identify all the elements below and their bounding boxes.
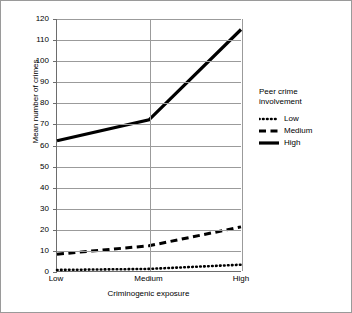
y-axis-tick-mark — [53, 82, 57, 83]
y-axis-tick-mark — [53, 188, 57, 189]
y-axis-tick-mark — [53, 272, 57, 273]
legend-swatch-dashed-icon — [259, 126, 279, 136]
y-axis-tick-label: 20 — [40, 226, 49, 234]
x-axis-tick-labels: LowMediumHigh — [56, 274, 241, 288]
y-axis-tick-mark — [53, 167, 57, 168]
x-axis-tick-label: Medium — [134, 274, 162, 283]
y-axis-tick-labels: 0102030405060708090100110120 — [1, 1, 53, 313]
y-axis-tick-mark — [53, 209, 57, 210]
y-axis-tick-mark — [53, 19, 57, 20]
legend-label: Medium — [284, 126, 312, 135]
y-axis-tick-label: 80 — [40, 99, 49, 107]
y-axis-tick-mark — [53, 61, 57, 62]
y-axis-tick-mark — [53, 251, 57, 252]
y-axis-tick-mark — [53, 124, 57, 125]
legend-entry-low: Low — [259, 113, 347, 124]
legend-entry-medium: Medium — [259, 125, 347, 136]
y-axis-tick-label: 70 — [40, 120, 49, 128]
y-axis-tick-mark — [53, 103, 57, 104]
x-axis-title: Criminogenic exposure — [56, 289, 241, 298]
y-axis-tick-label: 50 — [40, 163, 49, 171]
legend: Peer crime involvement LowMediumHigh — [259, 87, 347, 149]
category-separator — [150, 19, 151, 271]
y-axis-tick-mark — [53, 40, 57, 41]
y-axis-tick-label: 100 — [36, 57, 49, 65]
y-axis-tick-label: 10 — [40, 247, 49, 255]
x-axis-tick-label: High — [233, 274, 249, 283]
legend-swatch-dotted-icon — [259, 114, 279, 124]
legend-entry-high: High — [259, 137, 347, 148]
y-axis-tick-label: 110 — [36, 36, 49, 44]
y-axis-tick-mark — [53, 230, 57, 231]
legend-entries: LowMediumHigh — [259, 113, 347, 148]
plot-area — [56, 19, 241, 272]
legend-label: High — [284, 138, 300, 147]
category-separator — [242, 19, 243, 271]
y-axis-tick-label: 120 — [36, 15, 49, 23]
y-axis-tick-label: 90 — [40, 78, 49, 86]
legend-title: Peer crime involvement — [259, 87, 347, 107]
legend-label: Low — [284, 114, 299, 123]
y-axis-tick-label: 40 — [40, 184, 49, 192]
y-axis-tick-label: 30 — [40, 205, 49, 213]
chart-figure: Mean number of crimes 010203040506070809… — [0, 0, 352, 313]
x-axis-tick-label: Low — [49, 274, 64, 283]
y-axis-tick-mark — [53, 146, 57, 147]
y-axis-tick-label: 60 — [40, 142, 49, 150]
legend-swatch-solid-icon — [259, 138, 279, 148]
